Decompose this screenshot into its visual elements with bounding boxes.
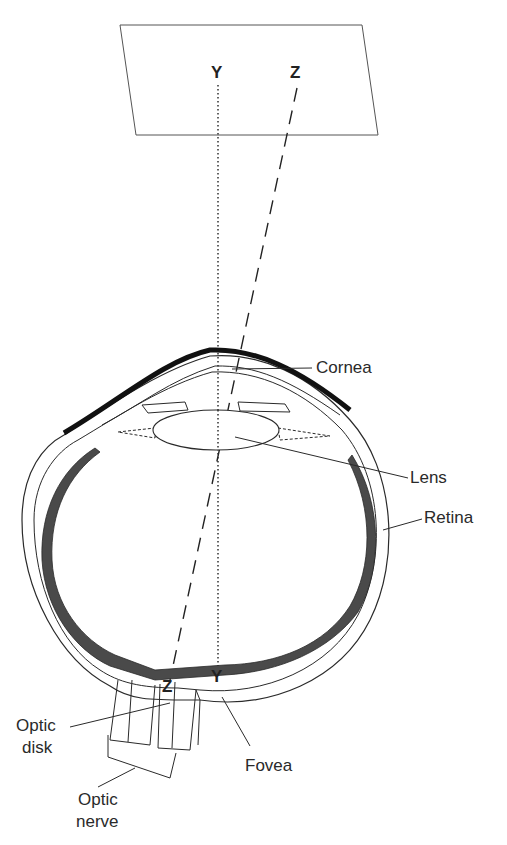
label-fovea: Fovea (245, 756, 292, 776)
sightline-z (170, 88, 297, 680)
lens-leader (235, 437, 408, 478)
iris-right (238, 402, 290, 412)
plane-point-y: Y (211, 63, 222, 83)
label-optic-nerve-1: Optic (78, 790, 118, 810)
optic-nerve (110, 680, 200, 750)
plane-point-z: Z (290, 63, 300, 83)
optic-disk-leader (70, 703, 170, 727)
retina-point-y: Y (211, 667, 222, 687)
eye-diagram (0, 0, 507, 845)
label-lens: Lens (410, 468, 447, 488)
fovea-leader (222, 697, 250, 746)
ciliary-left (118, 428, 155, 438)
iris-left (142, 402, 188, 413)
label-optic-nerve-2: nerve (76, 812, 119, 832)
label-optic-disk-2: disk (22, 738, 52, 758)
visual-plane (120, 25, 378, 135)
lens (153, 410, 279, 450)
label-optic-disk-1: Optic (16, 716, 56, 736)
optic-nerve-leader (98, 768, 135, 787)
label-retina: Retina (424, 508, 473, 528)
ciliary-right (278, 428, 330, 440)
retina (42, 448, 376, 680)
label-cornea: Cornea (316, 358, 372, 378)
retina-point-z: Z (162, 677, 172, 697)
